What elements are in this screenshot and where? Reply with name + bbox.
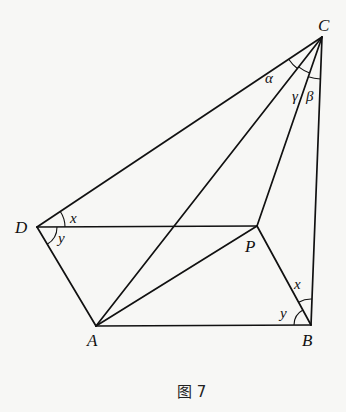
label-point-A: A bbox=[86, 331, 98, 350]
label-point-C: C bbox=[318, 16, 330, 35]
figure-caption: 图 7 bbox=[177, 383, 206, 401]
angle-label-C-alpha: α bbox=[265, 70, 274, 86]
label-point-B: B bbox=[302, 331, 313, 350]
angle-arc-C-gamma bbox=[299, 67, 310, 73]
segment-PC bbox=[257, 37, 322, 226]
segment-DA bbox=[37, 227, 96, 326]
angle-label-D-x: x bbox=[69, 210, 77, 226]
geometry-figure: C D P A B x y x y α γ β 图 7 bbox=[0, 0, 346, 412]
segment-BC bbox=[311, 37, 322, 325]
point-labels: C D P A B bbox=[14, 16, 330, 350]
angle-arc-B-y bbox=[294, 310, 303, 325]
angle-label-C-gamma: γ bbox=[292, 88, 299, 104]
label-point-D: D bbox=[14, 218, 28, 237]
segment-AB bbox=[96, 325, 311, 326]
angle-label-D-y: y bbox=[56, 230, 65, 246]
angle-arc-C-alpha bbox=[289, 59, 298, 68]
angle-arc-D-y bbox=[47, 227, 57, 244]
segment-AP bbox=[96, 226, 257, 326]
angle-arc-B-x bbox=[299, 299, 312, 302]
segment-DP bbox=[37, 226, 257, 227]
angle-labels: x y x y α γ β bbox=[56, 70, 314, 321]
angle-label-B-y: y bbox=[278, 305, 287, 321]
segments bbox=[37, 37, 322, 326]
angle-arc-C-beta bbox=[308, 77, 320, 79]
label-point-P: P bbox=[244, 237, 255, 256]
segment-DC bbox=[37, 37, 322, 227]
angle-arc-D-x bbox=[60, 212, 65, 227]
angle-label-C-beta: β bbox=[305, 88, 314, 104]
angle-label-B-x: x bbox=[293, 276, 301, 292]
